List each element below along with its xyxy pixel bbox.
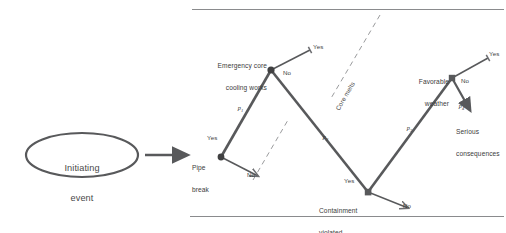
initiating-event-line1: Initiating — [46, 163, 118, 173]
stub-ecc-yes — [271, 50, 310, 70]
probability-label-p3: p3 — [400, 117, 413, 141]
pipe-break-line2: break — [192, 186, 209, 193]
node-marker-emergency-core-cooling — [267, 66, 274, 73]
branch-label-pipe-break-no: No — [247, 172, 255, 179]
branch-label-ecc-no: No — [283, 70, 291, 77]
weather-line1: Favorable — [406, 78, 449, 85]
p3-index: 3 — [410, 128, 412, 133]
ecc-line2: cooling works — [205, 84, 267, 91]
containment-line2: violated — [319, 229, 358, 233]
serious-line2: consequences — [456, 150, 500, 157]
node-marker-pipe-break — [218, 154, 225, 161]
p4-index: 4 — [462, 106, 464, 111]
branch-label-pipe-break-yes: Yes — [207, 135, 217, 142]
branch-label-containment-no: No — [403, 203, 411, 210]
p1-index: 1 — [241, 108, 243, 113]
p2-index: 2 — [326, 137, 328, 142]
pipe-break-line1: Pipe — [192, 164, 209, 171]
figure-canvas: Initiating event Pipe break Emergency co… — [0, 0, 506, 233]
branch-label-ecc-yes: Yes — [313, 44, 323, 51]
node-label-favorable-weather: Favorable weather — [406, 63, 449, 122]
dashed-divider-2 — [330, 15, 380, 100]
node-marker-containment-violated — [365, 189, 372, 196]
probability-label-p1: p1 — [231, 97, 244, 121]
node-label-pipe-break: Pipe break — [192, 149, 209, 208]
initiating-event-label: Initiating event — [46, 142, 118, 224]
branch-label-weather-no: No — [461, 78, 469, 85]
branch-label-weather-yes: Yes — [489, 51, 499, 58]
annotation-serious-consequences: Serious consequences — [456, 113, 500, 172]
stub-weather-yes — [452, 58, 488, 78]
stub-containment-no — [368, 192, 408, 208]
weather-line2: weather — [406, 100, 449, 107]
node-label-containment-violated: Containment violated — [319, 192, 358, 233]
branch-label-containment-yes: Yes — [344, 178, 354, 185]
containment-line1: Containment — [319, 207, 358, 214]
dashed-divider-1 — [253, 120, 288, 180]
initiating-event-line2: event — [46, 193, 118, 203]
node-marker-favorable-weather — [449, 75, 455, 81]
ecc-line1: Emergency core — [205, 62, 267, 69]
probability-label-p2: p2 — [316, 126, 329, 150]
serious-line1: Serious — [456, 128, 500, 135]
